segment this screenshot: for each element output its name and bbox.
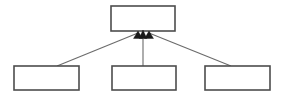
generalization-line-left[interactable] — [57, 33, 138, 66]
subclass-middle-rect[interactable] — [112, 66, 176, 90]
subclass-box-left[interactable] — [14, 66, 79, 90]
subclass-left-rect[interactable] — [14, 66, 79, 90]
superclass-box-rect[interactable] — [111, 6, 175, 31]
uml-generalization-diagram — [0, 0, 282, 103]
subclass-right-rect[interactable] — [205, 66, 270, 90]
subclass-box-right[interactable] — [205, 66, 270, 90]
diagram-canvas — [0, 0, 282, 103]
superclass-box[interactable] — [111, 6, 175, 31]
generalization-line-right[interactable] — [149, 33, 231, 66]
subclass-box-middle[interactable] — [112, 66, 176, 90]
